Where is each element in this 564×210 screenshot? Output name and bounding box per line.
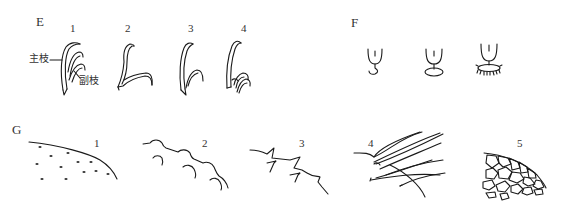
g2-scalloped-edge xyxy=(143,140,228,190)
e4-branch-drawing xyxy=(227,41,251,93)
e1-branch-drawing xyxy=(50,43,85,95)
f1-cup-curled-base xyxy=(368,49,382,74)
g3-zigzag-teeth xyxy=(250,148,328,194)
g5-reticulate-cells xyxy=(483,153,546,200)
diagram-drawings xyxy=(0,0,564,210)
g4-long-hairs xyxy=(354,132,445,197)
f2-cup-disc-base xyxy=(425,49,443,76)
e3-branch-drawing xyxy=(180,43,203,95)
e2-branch-drawing xyxy=(118,44,152,90)
f3-cup-fringed-base xyxy=(476,44,502,75)
g1-dotted-surface xyxy=(29,142,117,180)
